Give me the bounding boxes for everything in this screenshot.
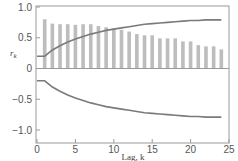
acf-bar (158, 38, 162, 68)
y-label-subscript: k (14, 52, 18, 60)
acf-bar (120, 30, 124, 69)
y-tick-label: 0.5 (18, 32, 32, 43)
acf-bar (81, 24, 85, 68)
lower-limit-curve (37, 81, 221, 117)
acf-bar (212, 46, 216, 68)
acf-bar (43, 19, 47, 68)
acf-bar (127, 32, 131, 69)
acf-bar (181, 41, 185, 68)
y-tick-label: −1.0 (12, 125, 32, 136)
x-tick-label: 0 (34, 144, 40, 155)
acf-bar (143, 35, 147, 68)
y-tick-label: 0 (26, 63, 32, 74)
acf-bar (104, 27, 108, 68)
acf-bar (66, 24, 70, 68)
y-tick-label: −0.5 (12, 94, 32, 105)
acf-bar (220, 49, 224, 68)
y-axis-label: rk (10, 48, 18, 60)
x-tick-label: 10 (108, 144, 120, 155)
acf-bar (189, 41, 193, 68)
acf-bar (89, 24, 93, 68)
acf-bar (196, 45, 200, 68)
x-tick-label: 5 (73, 144, 79, 155)
x-tick-label: 20 (185, 144, 197, 155)
y-tick-label: 1.0 (18, 2, 32, 13)
acf-bar (74, 25, 78, 69)
acf-bar (135, 34, 139, 68)
x-axis-label: Lag, k (122, 152, 145, 161)
acf-bar (51, 24, 55, 69)
x-tick-label: 25 (223, 144, 235, 155)
acf-chart: 1.00.50−0.5−1.00510152025 rk Lag, k (0, 0, 238, 161)
acf-bar (173, 38, 177, 68)
acf-bar (204, 46, 208, 68)
x-tick-label: 15 (147, 144, 159, 155)
acf-bar (112, 29, 116, 69)
acf-bar (150, 35, 154, 68)
acf-bar (166, 38, 170, 68)
